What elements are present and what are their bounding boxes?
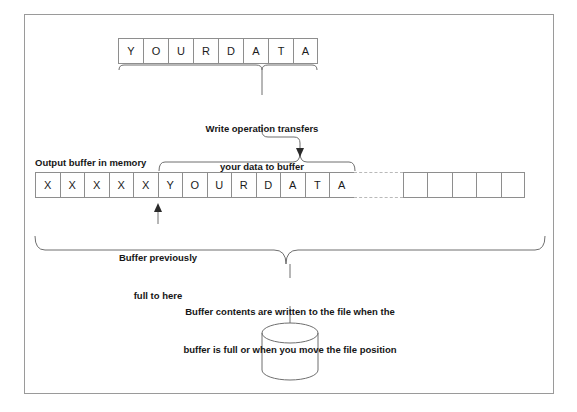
write-note-line1: Write operation transfers (206, 123, 319, 136)
buffer-filled-cell: X (84, 172, 109, 198)
buffer-empty-cell (427, 172, 452, 198)
buffer-filled-cell: X (133, 172, 158, 198)
buffer-ellipsis-gap (354, 172, 403, 198)
write-note-line2: your data to buffer (206, 161, 319, 174)
buffer-data-cell: O (182, 172, 207, 198)
buffer-flush-note: Buffer contents are written to the file … (183, 281, 396, 381)
source-data-row: Y O U R D A T A (118, 38, 318, 64)
buffer-empty-cell (403, 172, 428, 198)
buffer-title-label: Output buffer in memory (35, 157, 146, 170)
source-cell: R (193, 38, 218, 64)
source-cell: D (218, 38, 243, 64)
source-cell: A (243, 38, 268, 64)
buffer-filled-cell: X (109, 172, 134, 198)
buffer-data-cell: A (329, 172, 354, 198)
buffer-data-cell: Y (158, 172, 183, 198)
buffer-empty-cell (501, 172, 526, 198)
buffer-filled-cell: X (60, 172, 85, 198)
source-cell: A (293, 38, 318, 64)
source-cell: U (168, 38, 193, 64)
source-cell: T (268, 38, 293, 64)
prev-note-line1: Buffer previously (119, 252, 197, 265)
buffer-filled-cell: X (35, 172, 60, 198)
flush-note-line1: Buffer contents are written to the file … (183, 306, 396, 319)
diagram-figure: Y O U R D A T A Output buffer in memory … (0, 0, 577, 412)
flush-note-line2: buffer is full or when you move the file… (183, 344, 396, 357)
buffer-empty-cell (452, 172, 477, 198)
source-cell: Y (118, 38, 143, 64)
write-operation-note: Write operation transfers your data to b… (206, 98, 319, 198)
source-cell: O (143, 38, 168, 64)
buffer-empty-cell (476, 172, 501, 198)
